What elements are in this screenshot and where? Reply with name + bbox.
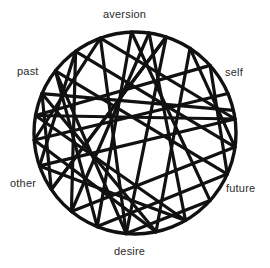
- node-label-other: other: [10, 177, 36, 190]
- chord-line: [36, 116, 186, 221]
- chord-diagram-canvas: [0, 0, 270, 268]
- node-label-future: future: [226, 182, 255, 195]
- node-label-desire: desire: [114, 245, 145, 258]
- chord-line: [36, 116, 236, 120]
- node-label-aversion: aversion: [103, 8, 146, 21]
- node-label-past: past: [17, 65, 39, 78]
- chord-diagram: aversion past self other future desire: [0, 0, 270, 268]
- node-label-self: self: [225, 66, 243, 79]
